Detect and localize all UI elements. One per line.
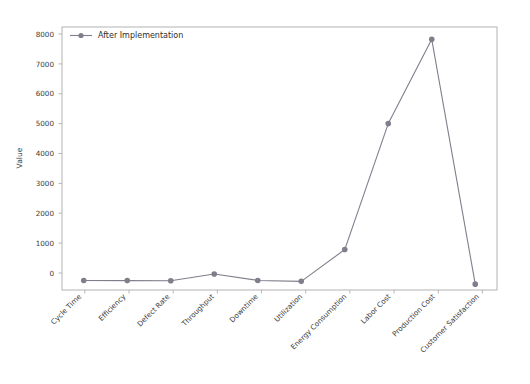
data-point bbox=[255, 278, 261, 284]
data-point bbox=[342, 247, 348, 253]
data-point bbox=[168, 278, 174, 284]
data-point bbox=[211, 271, 217, 277]
x-tick-label: Cycle Time bbox=[49, 292, 84, 327]
chart-figure: 0 1000 2000 3000 4000 5000 6000 7000 800… bbox=[0, 0, 530, 384]
y-tick-label: 2000 bbox=[36, 209, 55, 218]
data-point bbox=[298, 279, 304, 285]
legend-marker-swatch bbox=[78, 33, 83, 38]
data-point bbox=[124, 278, 130, 284]
y-tick-label: 7000 bbox=[36, 60, 55, 69]
data-point bbox=[429, 37, 435, 43]
y-tick-label: 3000 bbox=[36, 179, 55, 188]
x-tick-label: Throughput bbox=[179, 292, 216, 329]
data-point bbox=[385, 121, 391, 127]
y-tick-label: 6000 bbox=[36, 89, 55, 98]
x-tick-label: Efficiency bbox=[97, 292, 128, 323]
plot-area-background bbox=[62, 27, 497, 290]
x-tick-labels: Cycle Time Efficiency Defect Rate Throug… bbox=[49, 292, 481, 355]
x-tick-label: Utilization bbox=[272, 292, 304, 324]
x-tick-label: Downtime bbox=[228, 292, 261, 325]
y-tick-label: 5000 bbox=[36, 119, 55, 128]
x-tick-label: Production Cost bbox=[390, 292, 436, 338]
x-tick-marks bbox=[85, 290, 483, 294]
y-axis-title: Value bbox=[15, 147, 24, 168]
y-tick-label: 0 bbox=[49, 269, 54, 278]
legend-item-label: After Implementation bbox=[98, 31, 183, 40]
x-tick-label: Defect Rate bbox=[135, 292, 172, 329]
y-tick-label: 1000 bbox=[36, 239, 55, 248]
y-tick-label: 4000 bbox=[36, 149, 55, 158]
y-tick-label: 8000 bbox=[36, 30, 55, 39]
data-point bbox=[472, 281, 478, 287]
y-tick-labels: 0 1000 2000 3000 4000 5000 6000 7000 800… bbox=[36, 30, 55, 278]
line-chart-canvas: 0 1000 2000 3000 4000 5000 6000 7000 800… bbox=[0, 0, 530, 384]
x-tick-label: Labor Cost bbox=[359, 292, 393, 326]
y-tick-marks bbox=[59, 34, 63, 273]
data-point bbox=[81, 278, 87, 284]
